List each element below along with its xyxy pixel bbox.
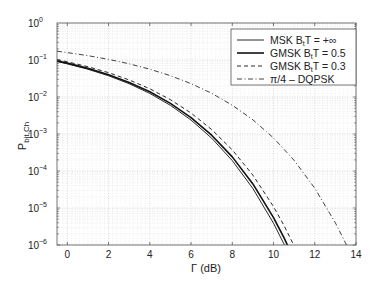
x-tick-label: 2 (106, 249, 112, 260)
y-tick-label-exponent: 0 (39, 16, 43, 23)
x-axis-label: Γ (dB) (191, 262, 221, 274)
y-tick-label: 10 (28, 203, 40, 214)
ber-chart: 02468101214 10010−110−210−310−410−510−6 … (0, 0, 376, 288)
y-tick-label-exponent: −3 (39, 127, 47, 134)
y-tick-label: 10 (28, 18, 40, 29)
x-tick-label: 12 (309, 249, 321, 260)
legend-label-3: π/4 – DQPSK (270, 73, 334, 85)
y-tick-label: 10 (28, 240, 40, 251)
y-tick-label-exponent: −1 (39, 53, 47, 60)
x-tick-label: 10 (268, 249, 280, 260)
y-tick-label: 10 (28, 55, 40, 66)
legend: MSK BtT = +∞GMSK BtT = 0.5GMSK BtT = 0.3… (231, 29, 356, 85)
y-axis-label: Pbit,Ch (16, 122, 31, 150)
legend-label-2: GMSK BtT = 0.3 (270, 60, 346, 73)
x-tick-label: 6 (188, 249, 194, 260)
x-tick-labels: 02468101214 (65, 249, 362, 260)
y-tick-label-exponent: −6 (39, 238, 47, 245)
x-tick-label: 14 (350, 249, 362, 260)
y-tick-label: 10 (28, 166, 40, 177)
y-tick-label: 10 (28, 92, 40, 103)
legend-label-1: GMSK BtT = 0.5 (270, 47, 346, 60)
x-tick-label: 8 (229, 249, 235, 260)
y-tick-label-exponent: −5 (39, 201, 47, 208)
y-axis-label-sub: bit,Ch (22, 122, 31, 143)
y-tick-label-exponent: −4 (39, 164, 47, 171)
y-tick-label-exponent: −2 (39, 90, 47, 97)
x-tick-label: 4 (147, 249, 153, 260)
svg-text:Pbit,Ch: Pbit,Ch (16, 122, 31, 150)
x-tick-label: 0 (65, 249, 71, 260)
y-axis-label-main: P (16, 143, 28, 150)
